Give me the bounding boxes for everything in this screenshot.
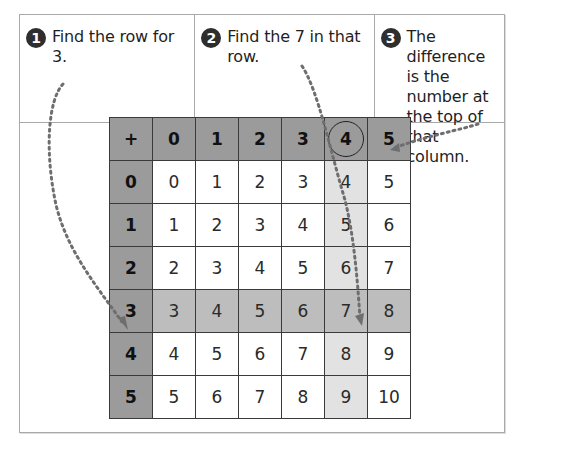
table-cell: 5 <box>153 376 196 419</box>
table-cell: 3 <box>196 247 239 290</box>
table-cell: 8 <box>325 333 368 376</box>
step-2: 2 Find the 7 in that row. <box>194 15 373 122</box>
column-header: 1 <box>196 118 239 161</box>
circled-header-value: 4 <box>328 121 364 157</box>
table-row: 4 4 5 6 7 8 9 <box>110 333 411 376</box>
row-header: 3 <box>110 290 153 333</box>
target-cell: 7 <box>325 290 368 333</box>
table-cell: 4 <box>239 247 282 290</box>
table-cell: 6 <box>325 247 368 290</box>
table-cell: 9 <box>325 376 368 419</box>
table-cell: 2 <box>153 247 196 290</box>
table-row: 0 0 1 2 3 4 5 <box>110 161 411 204</box>
table-cell: 2 <box>239 161 282 204</box>
step-3: 3 The difference is the number at the to… <box>374 15 504 122</box>
table-cell: 3 <box>282 161 325 204</box>
step-number-badge: 2 <box>201 28 221 48</box>
row-header: 4 <box>110 333 153 376</box>
table-cell: 5 <box>196 333 239 376</box>
table-cell: 7 <box>239 376 282 419</box>
column-header: 2 <box>239 118 282 161</box>
table-cell: 5 <box>325 204 368 247</box>
step-text: The difference is the number at the top … <box>407 27 498 167</box>
step-number-badge: 1 <box>26 28 46 48</box>
row-header: 1 <box>110 204 153 247</box>
table-cell: 0 <box>153 161 196 204</box>
table-cell: 8 <box>368 290 411 333</box>
table-row: 1 1 2 3 4 5 6 <box>110 204 411 247</box>
step-text: Find the 7 in that row. <box>227 27 367 67</box>
table-cell: 5 <box>368 161 411 204</box>
table-cell: 4 <box>282 204 325 247</box>
table-row: 2 2 3 4 5 6 7 <box>110 247 411 290</box>
table-cell: 6 <box>368 204 411 247</box>
table-cell: 3 <box>153 290 196 333</box>
row-header: 0 <box>110 161 153 204</box>
table-cell: 2 <box>196 204 239 247</box>
table-cell: 10 <box>368 376 411 419</box>
table-cell: 7 <box>282 333 325 376</box>
table-cell: 9 <box>368 333 411 376</box>
table-cell: 8 <box>282 376 325 419</box>
column-header: 5 <box>368 118 411 161</box>
corner-cell: + <box>110 118 153 161</box>
table-cell: 4 <box>153 333 196 376</box>
row-header: 2 <box>110 247 153 290</box>
table-row-highlighted: 3 3 4 5 6 7 8 <box>110 290 411 333</box>
table-cell: 1 <box>196 161 239 204</box>
step-number-badge: 3 <box>381 28 401 48</box>
row-header: 5 <box>110 376 153 419</box>
table-cell: 6 <box>196 376 239 419</box>
table-cell: 3 <box>239 204 282 247</box>
step-text: Find the row for 3. <box>52 27 188 67</box>
table-cell: 6 <box>282 290 325 333</box>
table-row: 5 5 6 7 8 9 10 <box>110 376 411 419</box>
table-cell: 4 <box>325 161 368 204</box>
header-row: + 0 1 2 3 4 5 <box>110 118 411 161</box>
column-header-circled: 4 <box>325 118 368 161</box>
table-cell: 5 <box>282 247 325 290</box>
steps-row: 1 Find the row for 3. 2 Find the 7 in th… <box>20 15 504 123</box>
column-header: 0 <box>153 118 196 161</box>
table-cell: 1 <box>153 204 196 247</box>
table-cell: 6 <box>239 333 282 376</box>
table-cell: 4 <box>196 290 239 333</box>
column-header: 3 <box>282 118 325 161</box>
table-cell: 7 <box>368 247 411 290</box>
step-1: 1 Find the row for 3. <box>20 15 194 122</box>
table-cell: 5 <box>239 290 282 333</box>
addition-table: + 0 1 2 3 4 5 0 0 1 2 3 4 5 1 1 2 3 4 5 … <box>109 117 411 419</box>
